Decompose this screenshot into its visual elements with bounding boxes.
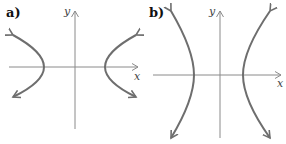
hyperbola-figure: a) y x b) y x	[0, 0, 286, 144]
hyperbola-right-branch	[105, 35, 136, 97]
panel-a: a) y x	[6, 5, 141, 129]
y-axis-label: y	[63, 5, 71, 18]
y-axis-label: y	[208, 5, 216, 18]
hyperbola-left-branch	[13, 35, 44, 97]
panel-b: b) y x	[149, 5, 284, 138]
panel-a-label: a)	[6, 5, 21, 20]
x-axis-label: x	[134, 70, 141, 83]
x-axis-label: x	[277, 77, 284, 90]
panel-b-label: b)	[149, 5, 164, 20]
